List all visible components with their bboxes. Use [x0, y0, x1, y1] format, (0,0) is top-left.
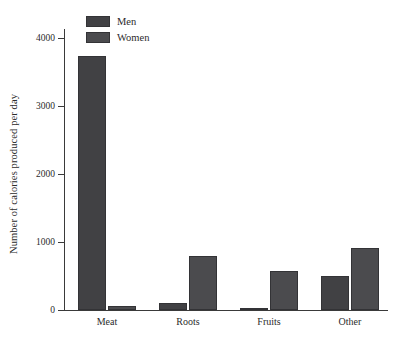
y-tick-label: 4000 [22, 33, 55, 43]
legend-item-men: Men [86, 15, 149, 28]
y-tick-mark [58, 242, 64, 243]
bar-meat-women[interactable] [108, 306, 136, 310]
y-axis-spine [64, 29, 65, 311]
y-tick-mark [58, 106, 64, 107]
y-tick-mark [58, 174, 64, 175]
y-tick-mark [58, 310, 64, 311]
x-tick-label-meat: Meat [97, 316, 118, 327]
chart-legend: Men Women [86, 15, 149, 44]
bar-chart-figure: Number of calories produced per day 0100… [0, 0, 405, 348]
x-tick-label-other: Other [339, 316, 362, 327]
legend-swatch-women-icon [86, 32, 110, 43]
y-tick-label: 3000 [22, 101, 55, 111]
legend-swatch-men-icon [86, 16, 110, 27]
legend-label-women: Women [117, 32, 149, 44]
y-tick-label: 0 [22, 305, 55, 315]
x-axis-spine [64, 310, 388, 311]
bar-roots-men[interactable] [159, 303, 187, 310]
bar-fruits-women[interactable] [270, 271, 298, 310]
bar-roots-women[interactable] [189, 256, 217, 310]
legend-item-women: Women [86, 31, 149, 44]
x-tick-label-fruits: Fruits [257, 316, 280, 327]
bar-meat-men[interactable] [78, 56, 106, 310]
plot-area: 01000200030004000 MeatRootsFruitsOther [64, 29, 388, 310]
bar-fruits-men[interactable] [240, 308, 268, 310]
legend-label-men: Men [117, 16, 136, 28]
x-tick-label-roots: Roots [176, 316, 199, 327]
bar-other-women[interactable] [351, 248, 379, 310]
bar-other-men[interactable] [321, 276, 349, 310]
y-tick-label: 2000 [22, 169, 55, 179]
y-tick-mark [58, 38, 64, 39]
y-tick-label: 1000 [22, 237, 55, 247]
